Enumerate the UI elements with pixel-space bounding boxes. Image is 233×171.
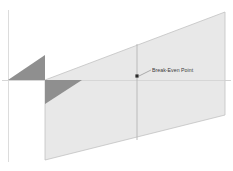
break-even-point-marker (135, 74, 138, 77)
break-even-chart-canvas: Break-Even Point (0, 0, 233, 171)
break-even-point-label: Break-Even Point (152, 67, 194, 73)
break-even-diagram: Break-Even Point (0, 0, 233, 171)
